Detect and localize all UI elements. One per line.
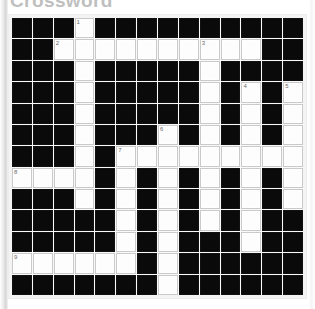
crossword-cell-block (200, 232, 220, 252)
crossword-cell-open[interactable] (200, 61, 220, 81)
crossword-cell-open[interactable] (283, 168, 303, 188)
crossword-cell-block (12, 146, 32, 166)
crossword-cell-open[interactable] (200, 146, 220, 166)
crossword-cell-open[interactable] (75, 82, 95, 102)
crossword-cell-block (95, 61, 115, 81)
crossword-cell-open[interactable] (283, 146, 303, 166)
crossword-grid[interactable]: 123456789 (12, 18, 303, 295)
crossword-cell-block (33, 210, 53, 230)
crossword-cell-open[interactable] (200, 125, 220, 145)
crossword-cell-open[interactable] (158, 232, 178, 252)
crossword-cell-open[interactable] (116, 210, 136, 230)
crossword-cell-block (200, 18, 220, 38)
crossword-cell-open[interactable] (75, 39, 95, 59)
crossword-cell-block (95, 82, 115, 102)
crossword-cell-open[interactable] (158, 189, 178, 209)
crossword-cell-block (54, 82, 74, 102)
crossword-cell-open[interactable] (241, 104, 261, 124)
crossword-cell-open[interactable] (158, 275, 178, 295)
crossword-cell-open[interactable] (283, 125, 303, 145)
crossword-cell-block (12, 104, 32, 124)
crossword-cell-open[interactable] (200, 82, 220, 102)
crossword-cell-open[interactable] (158, 210, 178, 230)
crossword-cell-block (95, 18, 115, 38)
crossword-cell-open[interactable]: 2 (54, 39, 74, 59)
crossword-cell-open[interactable] (241, 189, 261, 209)
crossword-cell-open[interactable]: 8 (12, 168, 32, 188)
crossword-cell-open[interactable] (221, 39, 241, 59)
crossword-cell-open[interactable] (116, 168, 136, 188)
crossword-cell-open[interactable] (54, 168, 74, 188)
crossword-cell-block (12, 82, 32, 102)
crossword-cell-block (33, 146, 53, 166)
crossword-cell-block (116, 82, 136, 102)
crossword-cell-block (283, 232, 303, 252)
crossword-cell-open[interactable] (241, 39, 261, 59)
crossword-cell-open[interactable] (158, 146, 178, 166)
crossword-cell-open[interactable] (179, 39, 199, 59)
crossword-cell-open[interactable] (137, 39, 157, 59)
crossword-cell-open[interactable] (116, 189, 136, 209)
crossword-cell-open[interactable] (137, 146, 157, 166)
crossword-cell-open[interactable] (200, 104, 220, 124)
crossword-cell-open[interactable] (283, 189, 303, 209)
clue-number: 9 (14, 254, 17, 261)
crossword-cell-open[interactable] (158, 39, 178, 59)
crossword-cell-block (283, 275, 303, 295)
crossword-cell-block (179, 61, 199, 81)
crossword-cell-open[interactable] (158, 253, 178, 273)
crossword-cell-open[interactable] (54, 253, 74, 273)
crossword-cell-open[interactable] (179, 146, 199, 166)
crossword-cell-open[interactable] (241, 168, 261, 188)
crossword-cell-open[interactable] (75, 146, 95, 166)
crossword-cell-open[interactable]: 5 (283, 82, 303, 102)
crossword-cell-open[interactable]: 9 (12, 253, 32, 273)
crossword-cell-open[interactable] (95, 253, 115, 273)
crossword-cell-open[interactable] (241, 125, 261, 145)
crossword-cell-block (262, 275, 282, 295)
crossword-cell-open[interactable] (283, 104, 303, 124)
crossword-cell-open[interactable]: 7 (116, 146, 136, 166)
crossword-cell-block (33, 39, 53, 59)
crossword-cell-open[interactable] (95, 39, 115, 59)
crossword-cell-open[interactable] (221, 146, 241, 166)
crossword-cell-open[interactable] (200, 210, 220, 230)
crossword-cell-open[interactable] (158, 168, 178, 188)
crossword-cell-block (12, 61, 32, 81)
clue-number: 8 (14, 169, 17, 176)
clue-number: 1 (77, 19, 80, 26)
crossword-cell-open[interactable] (75, 253, 95, 273)
crossword-cell-block (54, 189, 74, 209)
crossword-cell-block (116, 125, 136, 145)
crossword-cell-open[interactable]: 6 (158, 125, 178, 145)
crossword-cell-open[interactable] (200, 189, 220, 209)
crossword-cell-block (75, 210, 95, 230)
crossword-cell-open[interactable] (33, 168, 53, 188)
crossword-cell-block (12, 189, 32, 209)
crossword-cell-open[interactable] (241, 232, 261, 252)
crossword-cell-block (179, 104, 199, 124)
crossword-cell-block (262, 210, 282, 230)
crossword-cell-open[interactable] (262, 146, 282, 166)
crossword-cell-open[interactable] (241, 146, 261, 166)
crossword-cell-block (200, 253, 220, 273)
crossword-cell-block (137, 275, 157, 295)
crossword-cell-open[interactable] (200, 168, 220, 188)
crossword-cell-open[interactable] (75, 168, 95, 188)
crossword-cell-open[interactable] (75, 189, 95, 209)
crossword-cell-block (221, 253, 241, 273)
crossword-cell-open[interactable] (241, 210, 261, 230)
crossword-cell-open[interactable] (75, 61, 95, 81)
crossword-cell-open[interactable]: 1 (75, 18, 95, 38)
crossword-cell-open[interactable] (33, 253, 53, 273)
crossword-cell-block (262, 18, 282, 38)
crossword-cell-open[interactable] (116, 253, 136, 273)
crossword-cell-open[interactable] (75, 125, 95, 145)
crossword-cell-open[interactable]: 3 (200, 39, 220, 59)
crossword-cell-open[interactable] (75, 104, 95, 124)
crossword-cell-open[interactable]: 4 (241, 82, 261, 102)
crossword-cell-block (241, 275, 261, 295)
crossword-cell-open[interactable] (116, 39, 136, 59)
crossword-cell-block (283, 253, 303, 273)
crossword-cell-open[interactable] (116, 232, 136, 252)
